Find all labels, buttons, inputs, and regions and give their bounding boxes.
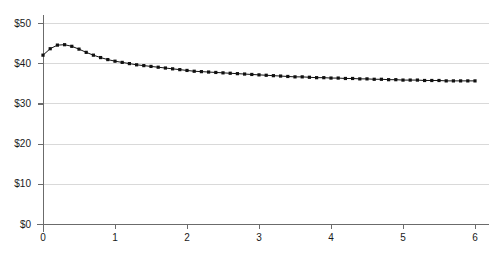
data-point-marker [229, 72, 232, 75]
data-point-marker [365, 77, 368, 80]
data-point-marker [301, 75, 304, 78]
data-point-marker [466, 79, 469, 82]
data-point-marker [445, 79, 448, 82]
data-point-marker [452, 79, 455, 82]
data-point-marker [322, 76, 325, 79]
data-point-marker [272, 74, 275, 77]
data-point-marker [236, 72, 239, 75]
x-axis-tick-label: 2 [184, 232, 190, 243]
data-point-marker [373, 78, 376, 81]
data-point-marker [409, 78, 412, 81]
data-point-marker [243, 72, 246, 75]
data-point-marker [401, 78, 404, 81]
data-point-marker [221, 71, 224, 74]
data-point-marker [99, 56, 102, 59]
data-point-marker [315, 76, 318, 79]
data-point-marker [293, 75, 296, 78]
data-point-marker [149, 65, 152, 68]
data-point-marker [430, 79, 433, 82]
line-chart: $0$10$20$30$40$50 0123456 [0, 0, 500, 254]
data-point-marker [178, 68, 181, 71]
data-point-marker [286, 75, 289, 78]
x-axis-tick-labels: 0123456 [40, 232, 478, 243]
data-point-marker [265, 74, 268, 77]
data-point-marker [387, 78, 390, 81]
data-point-marker [171, 67, 174, 70]
x-axis-tick-label: 6 [472, 232, 478, 243]
x-axis-tick-label: 3 [256, 232, 262, 243]
data-series-markers [41, 43, 476, 82]
data-point-marker [41, 54, 44, 57]
data-point-marker [459, 79, 462, 82]
data-point-marker [128, 62, 131, 65]
y-axis-tick-label: $10 [14, 178, 31, 189]
y-axis-tick-label: $0 [20, 219, 32, 230]
data-point-marker [329, 76, 332, 79]
data-point-marker [358, 77, 361, 80]
y-axis-tick-label: $50 [14, 18, 31, 29]
data-point-marker [200, 70, 203, 73]
data-point-marker [250, 73, 253, 76]
y-axis-tick-label: $40 [14, 58, 31, 69]
data-point-marker [394, 78, 397, 81]
data-point-marker [257, 73, 260, 76]
data-point-marker [135, 63, 138, 66]
data-point-marker [77, 48, 80, 51]
data-point-marker [157, 66, 160, 69]
x-axis-tick-label: 4 [328, 232, 334, 243]
y-axis-tick-labels: $0$10$20$30$40$50 [14, 18, 31, 230]
data-point-marker [214, 71, 217, 74]
y-axis-tick-label: $20 [14, 138, 31, 149]
data-point-marker [164, 66, 167, 69]
data-point-marker [473, 79, 476, 82]
data-point-marker [308, 76, 311, 79]
data-point-marker [121, 61, 124, 64]
data-point-marker [416, 78, 419, 81]
data-point-marker [351, 77, 354, 80]
data-point-marker [185, 69, 188, 72]
data-point-marker [193, 70, 196, 73]
data-point-marker [49, 47, 52, 50]
data-point-marker [142, 64, 145, 67]
data-point-marker [279, 74, 282, 77]
data-point-marker [423, 79, 426, 82]
data-point-marker [380, 78, 383, 81]
data-point-marker [85, 51, 88, 54]
x-axis-tick-label: 0 [40, 232, 46, 243]
gridlines [43, 24, 489, 225]
x-axis-tick-label: 1 [112, 232, 118, 243]
data-point-marker [337, 76, 340, 79]
y-axis-tick-label: $30 [14, 98, 31, 109]
chart-container: $0$10$20$30$40$50 0123456 [0, 0, 500, 254]
data-point-marker [207, 70, 210, 73]
x-axis-tick-label: 5 [400, 232, 406, 243]
data-point-marker [56, 44, 59, 47]
data-point-marker [437, 79, 440, 82]
data-point-marker [106, 58, 109, 61]
data-point-marker [344, 77, 347, 80]
data-point-marker [92, 54, 95, 57]
data-point-marker [70, 45, 73, 48]
data-point-marker [113, 60, 116, 63]
data-point-marker [63, 43, 66, 46]
